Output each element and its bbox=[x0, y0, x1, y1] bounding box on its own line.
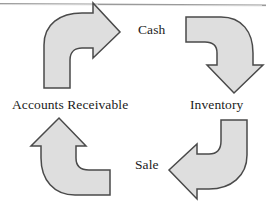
node-label-inventory: Inventory bbox=[190, 98, 243, 112]
arrow-cash-to-inventory bbox=[186, 17, 263, 93]
arrow-accounts-receivable-to-cash bbox=[44, 3, 120, 88]
node-label-accounts-receivable: Accounts Receivable bbox=[12, 98, 128, 112]
arrow-inventory-to-sale bbox=[169, 120, 247, 199]
node-label-cash: Cash bbox=[138, 23, 165, 37]
operating-cycle-diagram: Cash Inventory Sale Accounts Receivable bbox=[0, 0, 266, 215]
arrow-sale-to-accounts-receivable bbox=[31, 118, 110, 195]
node-label-sale: Sale bbox=[135, 158, 159, 172]
